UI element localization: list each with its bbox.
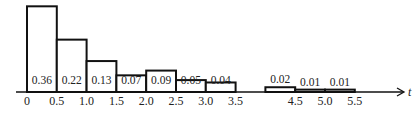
bar-value-label: 0.05 bbox=[181, 74, 201, 86]
bar-value-label: 0.09 bbox=[151, 74, 171, 86]
x-tick-label: 0 bbox=[24, 94, 30, 108]
x-tick-label: 4.5 bbox=[288, 94, 303, 108]
x-tick-label: 1.0 bbox=[79, 94, 94, 108]
histogram-chart: 0.360.220.130.070.090.050.040.020.010.01… bbox=[0, 0, 417, 113]
x-tick-label: 0.5 bbox=[49, 94, 64, 108]
x-tick-label: 3.5 bbox=[228, 94, 243, 108]
bar-value-label: 0.02 bbox=[270, 73, 290, 85]
bar-value-label: 0.01 bbox=[300, 76, 320, 88]
bar-value-label: 0.13 bbox=[91, 74, 111, 86]
x-tick-label: 2.5 bbox=[169, 94, 184, 108]
x-axis-label: t bbox=[408, 85, 412, 99]
bar-value-label: 0.07 bbox=[121, 74, 141, 86]
x-tick-label: 5.5 bbox=[347, 94, 362, 108]
bar-value-label: 0.22 bbox=[62, 74, 82, 86]
x-tick-label: 1.5 bbox=[109, 94, 124, 108]
bar-value-label: 0.36 bbox=[32, 74, 52, 86]
x-tick-labels: 00.51.01.52.02.53.03.54.55.05.5 bbox=[24, 94, 362, 108]
bar-value-label: 0.04 bbox=[211, 74, 231, 86]
bar-value-label: 0.01 bbox=[330, 76, 350, 88]
x-tick-label: 3.0 bbox=[198, 94, 213, 108]
bar-value-labels: 0.360.220.130.070.090.050.040.020.010.01 bbox=[32, 73, 350, 87]
x-tick-label: 2.0 bbox=[139, 94, 154, 108]
x-tick-label: 5.0 bbox=[318, 94, 333, 108]
